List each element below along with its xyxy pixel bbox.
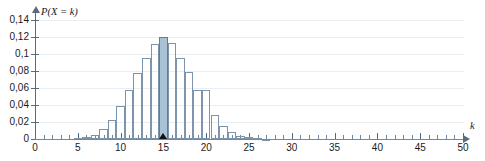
bar: [108, 120, 117, 140]
bar: [125, 90, 134, 139]
highlight-marker-icon: [159, 133, 167, 139]
bar: [142, 58, 151, 139]
bar: [151, 44, 160, 139]
bar-series: [0, 0, 485, 161]
bar: [168, 43, 177, 139]
x-axis-arrow-icon: [463, 135, 470, 143]
chart-canvas: 00,020,040,060,080,10,120,14 05101520253…: [0, 0, 485, 161]
x-axis-label: k: [470, 120, 475, 131]
y-axis-label: P(X = k): [41, 6, 78, 17]
bar: [202, 90, 211, 139]
bar: [185, 72, 194, 139]
bar: [133, 73, 142, 139]
bar: [211, 115, 220, 139]
bar: [193, 90, 202, 139]
bar: [99, 129, 108, 139]
x-axis-line: [35, 139, 464, 140]
bar-highlighted: [159, 37, 168, 139]
y-axis-line: [35, 12, 36, 139]
bar: [219, 126, 228, 139]
y-axis-arrow-icon: [32, 6, 40, 13]
bar: [176, 58, 185, 139]
bar: [116, 106, 125, 139]
